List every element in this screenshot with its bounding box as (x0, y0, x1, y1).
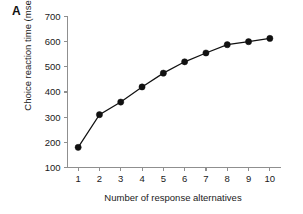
x-tick-label: 3 (118, 173, 123, 184)
data-point (245, 39, 251, 45)
data-point (160, 70, 166, 76)
y-tick-group: 100200300400500600700 (45, 11, 68, 173)
data-point (75, 144, 81, 150)
data-point (182, 59, 188, 65)
y-tick-label: 200 (45, 137, 61, 148)
data-point (96, 112, 102, 118)
y-tick-label: 400 (45, 86, 61, 97)
data-point (203, 50, 209, 56)
y-tick-label: 700 (45, 11, 61, 22)
x-tick-label: 9 (246, 173, 251, 184)
x-tick-label: 4 (139, 173, 144, 184)
x-tick-label: 6 (182, 173, 187, 184)
x-tick-group: 12345678910 (76, 168, 276, 184)
data-point (267, 35, 273, 41)
series-markers (75, 35, 273, 150)
x-tick-label: 8 (225, 173, 230, 184)
x-axis-title: Number of response alternatives (67, 192, 279, 203)
x-tick-label: 10 (265, 173, 276, 184)
y-tick-label: 100 (45, 162, 61, 173)
x-tick-label: 7 (203, 173, 208, 184)
y-tick-label: 300 (45, 112, 61, 123)
y-tick-label: 500 (45, 61, 61, 72)
data-point (224, 42, 230, 48)
data-point (118, 99, 124, 105)
data-point (139, 84, 145, 90)
figure-panel: A Choice reaction time (msec) 1002003004… (0, 0, 303, 214)
y-tick-label: 600 (45, 36, 61, 47)
x-tick-label: 1 (76, 173, 81, 184)
series-line (78, 38, 270, 147)
x-tick-label: 2 (97, 173, 102, 184)
x-tick-label: 5 (161, 173, 166, 184)
line-chart: 100200300400500600700 12345678910 (0, 0, 303, 214)
